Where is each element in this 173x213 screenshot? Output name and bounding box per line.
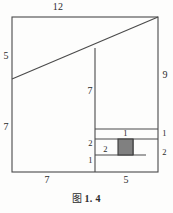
diagonal-line — [12, 17, 158, 79]
label-middle-vertical-7: 7 — [85, 86, 95, 96]
label-right-strip-1: 1 — [160, 129, 169, 138]
label-bottom-right-5: 5 — [120, 175, 132, 185]
caption-number: 1. 4 — [84, 193, 101, 204]
label-shaded-square-1: 1 — [121, 129, 130, 138]
caption-prefix: 图 — [72, 193, 82, 204]
figure-drawing — [0, 0, 173, 213]
label-left-lower-7: 7 — [1, 122, 11, 132]
label-inner-rect-2: 2 — [101, 145, 110, 154]
figure-caption: 图1. 4 — [0, 190, 173, 205]
label-inner-left-upper-2: 2 — [86, 139, 95, 148]
label-top-12: 12 — [48, 2, 68, 12]
label-bottom-left-7: 7 — [41, 175, 53, 185]
label-right-9: 9 — [160, 70, 170, 80]
label-inner-left-lower-1: 1 — [86, 156, 95, 165]
shaded-square — [118, 139, 133, 155]
label-right-strip-2: 2 — [160, 148, 169, 157]
figure-container: 12 5 7 9 7 5 7 1 2 2 1 2 1 图1. 4 — [0, 0, 173, 213]
label-left-upper-5: 5 — [1, 51, 11, 61]
